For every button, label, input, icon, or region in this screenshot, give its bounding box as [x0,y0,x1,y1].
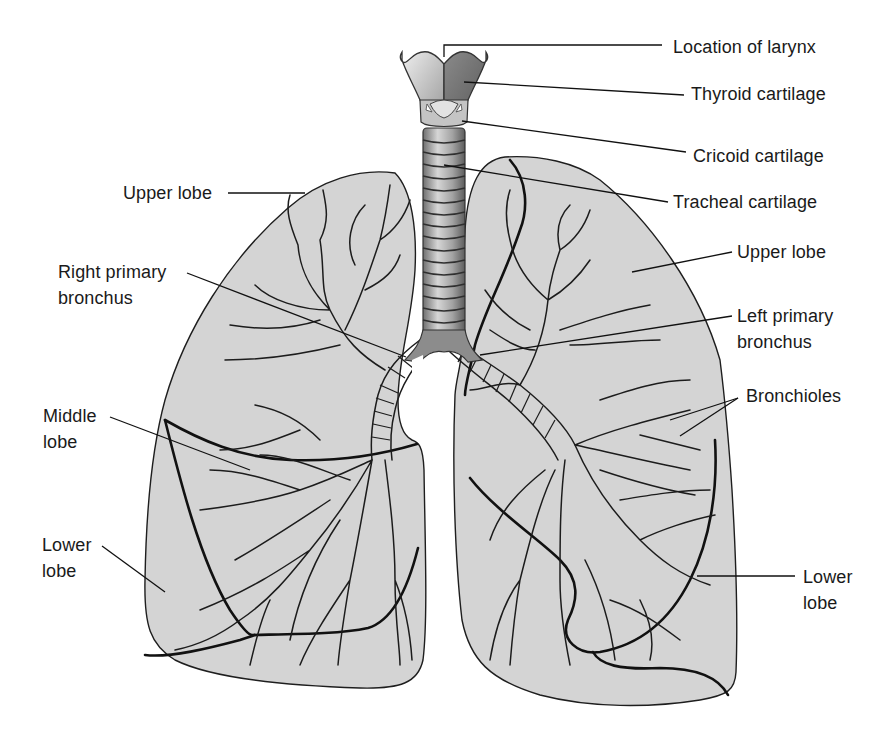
label-right-lower-lobe: Lower lobe [42,532,92,584]
right-lung-outline [145,172,426,688]
mediastinum-gap [412,355,426,430]
label-right-upper-lobe: Upper lobe [123,180,212,206]
label-bronchioles: Bronchioles [746,383,841,409]
label-tracheal-cartilage: Tracheal cartilage [673,189,817,215]
larynx [400,52,487,127]
label-left-upper-lobe: Upper lobe [737,239,826,265]
label-middle-lobe: Middle lobe [43,403,97,455]
right-lung [145,172,426,688]
respiratory-anatomy-diagram [0,0,896,740]
label-right-primary-bronchus: Right primary bronchus [58,259,166,311]
left-lung-outline [454,157,737,706]
label-left-lower-lobe: Lower lobe [803,564,853,616]
left-lung [454,157,737,706]
leader-thyroid-cartilage [464,82,684,95]
label-location-of-larynx: Location of larynx [673,34,816,60]
leader-location-of-larynx [444,45,662,57]
label-left-primary-bronchus: Left primary bronchus [737,303,833,355]
label-thyroid-cartilage: Thyroid cartilage [691,81,826,107]
leader-cricoid-cartilage [462,121,686,152]
label-cricoid-cartilage: Cricoid cartilage [693,143,824,169]
